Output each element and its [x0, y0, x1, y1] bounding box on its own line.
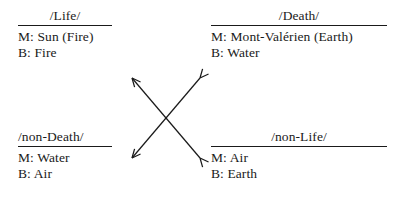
quadrant-death-line-b: B: Water [211, 45, 387, 62]
quadrant-non-life-heading: /non-Life/ [211, 129, 387, 144]
quadrant-non-death-line-b: B: Air [18, 166, 112, 183]
quadrant-non-death-line-m: M: Water [18, 150, 112, 167]
quadrant-life-heading: /Life/ [18, 8, 112, 23]
quadrant-non-life-line-m: M: Air [211, 150, 387, 167]
quadrant-non-death-rule [18, 146, 112, 147]
contradiction-arrows [118, 64, 214, 174]
quadrant-non-life-line-b: B: Earth [211, 166, 387, 183]
quadrant-life-rule [18, 25, 112, 26]
semiotic-square-figure: /Life/ M: Sun (Fire) B: Fire /Death/ M: … [0, 0, 407, 208]
quadrant-life-line-b: B: Fire [18, 45, 112, 62]
quadrant-non-life-rule [211, 146, 387, 147]
quadrant-life-line-m: M: Sun (Fire) [18, 29, 112, 46]
quadrant-death: /Death/ M: Mont-Valérien (Earth) B: Wate… [211, 8, 387, 62]
quadrant-life: /Life/ M: Sun (Fire) B: Fire [18, 8, 112, 62]
quadrant-death-line-m: M: Mont-Valérien (Earth) [211, 29, 387, 46]
quadrant-death-rule [211, 25, 387, 26]
quadrant-death-heading: /Death/ [211, 8, 387, 23]
quadrant-non-death: /non-Death/ M: Water B: Air [18, 129, 112, 183]
quadrant-non-death-heading: /non-Death/ [18, 129, 112, 144]
quadrant-non-life: /non-Life/ M: Air B: Earth [211, 129, 387, 183]
